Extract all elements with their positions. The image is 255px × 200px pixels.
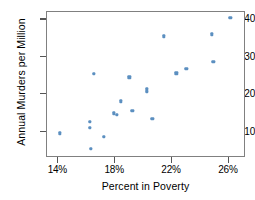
data-point	[185, 67, 188, 70]
data-point	[92, 72, 95, 75]
x-tick-mark	[171, 157, 172, 163]
data-point	[89, 147, 92, 150]
data-point	[58, 132, 61, 135]
data-point	[119, 100, 122, 103]
data-point	[102, 135, 105, 138]
data-point	[88, 126, 91, 129]
data-point	[210, 33, 213, 36]
data-point	[115, 113, 118, 116]
data-point	[212, 60, 215, 63]
data-point	[229, 16, 232, 19]
x-axis-label: Percent in Poverty	[46, 180, 245, 192]
x-tick-label: 22%	[161, 164, 180, 175]
data-point	[162, 35, 165, 38]
scatter-chart: Annual Murders per Million 10203040 14%1…	[0, 0, 255, 200]
x-tick-mark	[114, 157, 115, 163]
data-point	[145, 90, 148, 93]
x-tick-label: 26%	[218, 164, 237, 175]
data-point	[131, 109, 134, 112]
y-axis-label: Annual Murders per Million	[15, 7, 27, 157]
plot-area	[46, 11, 245, 157]
x-tick-label: 14%	[48, 164, 67, 175]
x-tick-mark	[57, 157, 58, 163]
data-points	[47, 12, 244, 156]
x-tick-label: 18%	[105, 164, 124, 175]
data-point	[150, 117, 153, 120]
x-tick-mark	[228, 157, 229, 163]
data-point	[88, 120, 91, 123]
data-point	[128, 75, 131, 78]
data-point	[175, 72, 178, 75]
